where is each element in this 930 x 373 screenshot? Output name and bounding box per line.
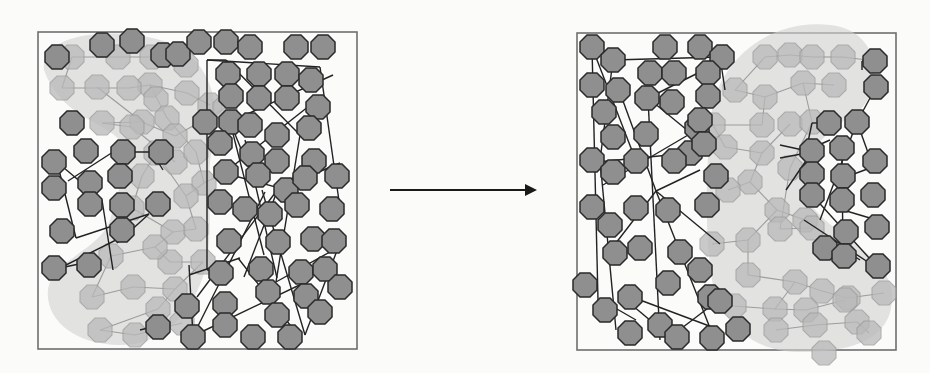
node: [726, 317, 750, 341]
node: [311, 35, 335, 59]
node: [233, 197, 257, 221]
faded-node: [763, 297, 787, 321]
node: [265, 123, 289, 147]
node: [247, 86, 271, 110]
node: [217, 229, 241, 253]
node: [688, 258, 712, 282]
faded-node: [753, 45, 777, 69]
node: [74, 139, 98, 163]
node: [601, 160, 625, 184]
node: [208, 131, 232, 155]
node: [78, 192, 102, 216]
node: [278, 325, 302, 349]
node: [42, 176, 66, 200]
faded-node: [803, 313, 827, 337]
node: [573, 273, 597, 297]
node: [208, 190, 232, 214]
node: [77, 253, 101, 277]
node: [863, 149, 887, 173]
node: [628, 236, 652, 260]
node: [247, 62, 271, 86]
faded-node: [750, 141, 774, 165]
node: [624, 196, 648, 220]
node: [60, 111, 84, 135]
node: [800, 183, 824, 207]
node: [831, 164, 855, 188]
node: [863, 49, 887, 73]
node: [289, 260, 313, 284]
node: [90, 33, 114, 57]
faded-node: [130, 164, 154, 188]
left-panel-before: [38, 29, 357, 349]
node: [258, 202, 282, 226]
faded-node: [800, 45, 824, 69]
node: [322, 229, 346, 253]
faded-node: [121, 275, 145, 299]
node: [653, 35, 677, 59]
faded-node: [750, 113, 774, 137]
node: [275, 86, 299, 110]
node: [175, 294, 199, 318]
node: [834, 220, 858, 244]
faded-node: [778, 43, 802, 67]
node: [618, 285, 642, 309]
faded-node: [80, 285, 104, 309]
faded-node: [778, 156, 802, 180]
faded-node: [736, 228, 760, 252]
node: [285, 193, 309, 217]
node: [325, 164, 349, 188]
node: [120, 29, 144, 53]
transition-arrow: [390, 184, 537, 196]
faded-node: [723, 78, 747, 102]
node: [299, 68, 323, 92]
node: [111, 140, 135, 164]
node: [866, 254, 890, 278]
node: [108, 164, 132, 188]
node: [635, 86, 659, 110]
figure: [0, 0, 930, 373]
node: [700, 326, 724, 350]
faded-node: [753, 85, 777, 109]
node: [832, 244, 856, 268]
node: [656, 198, 680, 222]
node: [618, 321, 642, 345]
node: [688, 35, 712, 59]
faded-node: [123, 323, 147, 347]
node: [149, 140, 173, 164]
faded-node: [738, 170, 762, 194]
faded-node: [833, 288, 857, 312]
faded-node: [857, 321, 881, 345]
node: [45, 45, 69, 69]
faded-node: [831, 45, 855, 69]
arrow-head-icon: [525, 184, 537, 196]
node: [42, 256, 66, 280]
faded-node: [768, 217, 792, 241]
faded-node: [810, 279, 834, 303]
faded-node: [184, 217, 208, 241]
faded-node: [872, 281, 896, 305]
node: [598, 213, 622, 237]
node: [660, 90, 684, 114]
node: [601, 48, 625, 72]
node: [284, 35, 308, 59]
node: [238, 35, 262, 59]
node: [665, 325, 689, 349]
faded-node: [85, 75, 109, 99]
node: [580, 195, 604, 219]
faded-node: [736, 263, 760, 287]
node: [692, 132, 716, 156]
node: [662, 149, 686, 173]
faded-node: [778, 112, 802, 136]
node: [328, 275, 352, 299]
node: [580, 73, 604, 97]
faded-node: [700, 232, 724, 256]
node: [601, 125, 625, 149]
node: [187, 30, 211, 54]
node: [593, 298, 617, 322]
faded-node: [143, 235, 167, 259]
node: [603, 241, 627, 265]
node: [266, 230, 290, 254]
faded-node: [791, 71, 815, 95]
node: [606, 78, 630, 102]
node: [695, 193, 719, 217]
